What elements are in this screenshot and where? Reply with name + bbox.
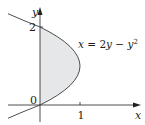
equation-label: x = 2y − y2 [78,38,138,50]
eq-equals: = 2 [84,38,106,50]
y-axis-label: y [31,6,39,19]
y-tick-label-2: 2 [29,21,36,34]
eq-minus: − [112,38,127,50]
x-tick-label-1: 1 [78,109,85,122]
x-axis-arrow-icon [133,103,141,108]
parabola-diagram: y 2 0 1 x x = 2y − y2 [0,0,145,125]
eq-exponent: 2 [133,38,137,46]
y-axis-arrow-icon [38,7,43,15]
x-axis-label: x [135,109,142,122]
origin-label: 0 [30,94,37,107]
